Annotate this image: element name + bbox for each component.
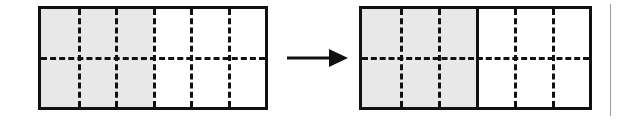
right-fraction-bar bbox=[359, 6, 592, 110]
fraction-equivalence-figure bbox=[0, 0, 620, 123]
arrow-shaft-icon bbox=[287, 57, 333, 60]
right-row-divider-1 bbox=[362, 57, 589, 60]
page-margin-rule bbox=[610, 4, 611, 116]
left-row-divider-1 bbox=[41, 57, 265, 60]
transformation-arrow bbox=[287, 48, 348, 68]
left-fraction-bar bbox=[38, 6, 268, 110]
arrow-head-icon bbox=[329, 49, 348, 67]
